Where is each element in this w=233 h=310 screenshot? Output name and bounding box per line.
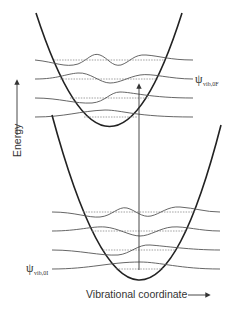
diagram-canvas: Energy Vibrational coordinate ψ vib,0F ψ…	[0, 0, 233, 310]
lower-potential-well	[52, 115, 221, 280]
lower-wavefunctions	[52, 207, 220, 269]
upper-potential-well	[36, 13, 182, 127]
lower-state-label: ψ vib,0I	[26, 261, 48, 276]
x-axis-label: Vibrational coordinate	[86, 288, 188, 300]
energy-axis-label: Energy	[11, 123, 23, 157]
svg-text:vib,0I: vib,0I	[34, 270, 48, 276]
upper-wavefunctions	[35, 54, 193, 117]
svg-text:ψ: ψ	[195, 72, 203, 86]
vibrational-coordinate-axis: Vibrational coordinate	[86, 288, 208, 300]
upper-state-label: ψ vib,0F	[195, 72, 219, 87]
energy-axis: Energy	[11, 82, 23, 157]
svg-text:vib,0F: vib,0F	[203, 81, 219, 87]
upper-energy-levels	[54, 60, 165, 117]
svg-text:ψ: ψ	[26, 261, 34, 275]
